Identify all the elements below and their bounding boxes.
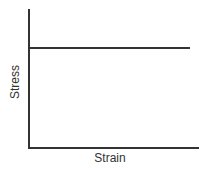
x-axis-label: Strain bbox=[80, 150, 140, 166]
stress-strain-chart: Stress Strain bbox=[0, 0, 213, 170]
y-axis-label: Stress bbox=[7, 52, 23, 112]
x-axis bbox=[28, 147, 199, 149]
constant-stress-line bbox=[29, 47, 190, 49]
y-axis bbox=[28, 9, 30, 149]
